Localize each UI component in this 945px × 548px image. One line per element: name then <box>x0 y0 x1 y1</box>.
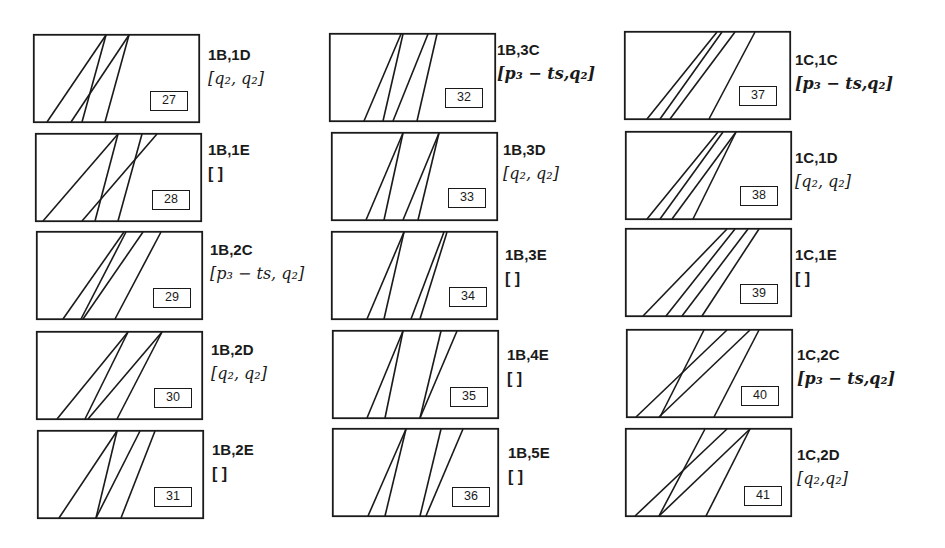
case-label: 1B,2D [q₂, q₂] <box>211 340 267 385</box>
case-label: 1B,2E [ ] <box>212 440 254 485</box>
case-name: 1B,1E <box>208 140 250 160</box>
diagram-panel-35: 35 <box>332 330 499 419</box>
case-label: 1B,1D [q₂, q₂] <box>208 45 264 90</box>
panel-number-badge: 27 <box>150 91 188 111</box>
panel-frame <box>626 132 791 219</box>
panel-number-badge: 38 <box>740 186 778 206</box>
diagram-panel-40: 40 <box>626 329 793 418</box>
case-label: 1B,3E [ ] <box>505 245 547 290</box>
case-label: 1C,1D [q₂, q₂] <box>795 148 851 193</box>
diagram-panel-33: 33 <box>331 132 498 221</box>
case-label: 1B,4E [ ] <box>507 345 549 390</box>
diagram-panel-28: 28 <box>35 133 202 222</box>
panel-number-badge: 40 <box>741 386 779 406</box>
interval-value: [q₂, q₂] <box>211 363 267 385</box>
case-name: 1B,4E <box>507 345 549 365</box>
interval-value: [p₃ − ts,q₂] <box>497 63 595 85</box>
panel-number-badge: 33 <box>448 188 486 208</box>
line-diagram <box>624 31 791 120</box>
case-label: 1B,2C [p₃ − ts, q₂] <box>210 240 304 285</box>
case-label: 1C,1E [ ] <box>795 245 837 290</box>
case-name: 1C,1C <box>795 50 893 70</box>
case-label: 1B,5E [ ] <box>508 443 550 488</box>
interval-value: [q₂, q₂] <box>208 68 264 90</box>
panel-number-badge: 36 <box>452 487 490 507</box>
case-label: 1C,2C [p₃ − ts,q₂] <box>797 345 895 390</box>
diagram-panel-38: 38 <box>625 131 792 220</box>
case-name: 1C,1E <box>795 245 837 265</box>
interval-value: [p₃ − ts,q₂] <box>797 368 895 390</box>
panel-number-badge: 28 <box>152 190 190 210</box>
case-name: 1C,1D <box>795 148 851 168</box>
case-name: 1C,2D <box>797 445 848 465</box>
case-label: 1B,3D [q₂, q₂] <box>503 140 559 185</box>
interval-value: [ ] <box>208 163 250 185</box>
diagram-panel-41: 41 <box>625 428 792 517</box>
panel-number-badge: 37 <box>739 86 777 106</box>
diagram-panel-39: 39 <box>625 228 792 317</box>
interval-value: [ ] <box>508 466 550 488</box>
interval-value: [p₃ − ts,q₂] <box>795 73 893 95</box>
diagram-panel-37: 37 <box>624 31 791 120</box>
interval-value: [ ] <box>795 268 837 290</box>
case-name: 1B,1D <box>208 45 264 65</box>
case-name: 1B,2C <box>210 240 304 260</box>
case-label: 1C,1C [p₃ − ts,q₂] <box>795 50 893 95</box>
case-name: 1B,3E <box>505 245 547 265</box>
diagram-panel-34: 34 <box>331 231 498 320</box>
line-diagram <box>329 33 496 122</box>
panel-number-badge: 31 <box>154 487 192 507</box>
case-label: 1C,2D [q₂,q₂] <box>797 445 848 490</box>
case-name: 1B,2E <box>212 440 254 460</box>
case-name: 1B,3D <box>503 140 559 160</box>
panel-number-badge: 39 <box>740 284 778 304</box>
panel-frame <box>330 34 495 121</box>
case-label: 1B,3C [p₃ − ts,q₂] <box>497 40 595 85</box>
diagram-panel-30: 30 <box>36 331 203 420</box>
case-label: 1B,1E [ ] <box>208 140 250 185</box>
panel-number-badge: 29 <box>153 288 191 308</box>
case-name: 1B,5E <box>508 443 550 463</box>
interval-value: [ ] <box>505 268 547 290</box>
case-name: 1B,2D <box>211 340 267 360</box>
panel-number-badge: 41 <box>744 486 782 506</box>
case-name: 1C,2C <box>797 345 895 365</box>
interval-value: [p₃ − ts, q₂] <box>210 263 304 285</box>
panel-number-badge: 32 <box>445 88 483 108</box>
panel-number-badge: 35 <box>450 387 488 407</box>
diagram-panel-29: 29 <box>36 231 203 320</box>
line-diagram <box>625 131 792 220</box>
diagram-panel-36: 36 <box>332 428 499 517</box>
interval-value: [ ] <box>507 368 549 390</box>
diagram-panel-31: 31 <box>37 430 204 519</box>
panel-number-badge: 34 <box>449 287 487 307</box>
interval-value: [ ] <box>212 463 254 485</box>
diagram-panel-27: 27 <box>33 34 200 123</box>
panel-number-badge: 30 <box>154 388 192 408</box>
interval-value: [q₂, q₂] <box>795 171 851 193</box>
diagram-panel-32: 32 <box>329 33 496 122</box>
case-name: 1B,3C <box>497 40 595 60</box>
interval-value: [q₂,q₂] <box>797 468 848 490</box>
interval-value: [q₂, q₂] <box>503 163 559 185</box>
